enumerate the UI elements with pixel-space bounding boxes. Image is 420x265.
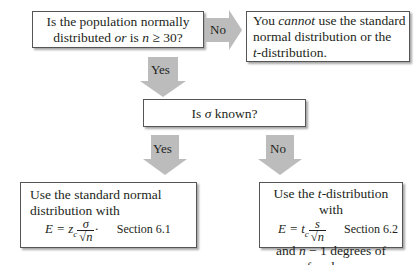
no-label-1: No (210, 22, 226, 38)
cannot-use-box: You cannot use the standard normal distr… (246, 11, 410, 62)
question-normal-or-n30-box: Is the population normally distributed o… (32, 11, 204, 48)
question-line-2: distributed or is n ≥ 30? (33, 30, 203, 46)
no-label-2: No (270, 141, 286, 157)
margin-of-error-formula-z: E = zcσ√n·Section 6.1 (45, 218, 196, 243)
yes-label-1: Yes (151, 62, 170, 78)
yes-label-2: Yes (153, 141, 172, 157)
t-distribution-box: Use the t-distribution with E = tcs√nSec… (259, 182, 403, 248)
standard-normal-box: Use the standard normal distribution wit… (20, 182, 197, 248)
margin-of-error-formula-t: E = tcs√nSection 6.2 (278, 218, 402, 243)
question-line-1: Is the population normally (33, 14, 203, 30)
sigma-known-box: Is σ known? (143, 99, 306, 127)
